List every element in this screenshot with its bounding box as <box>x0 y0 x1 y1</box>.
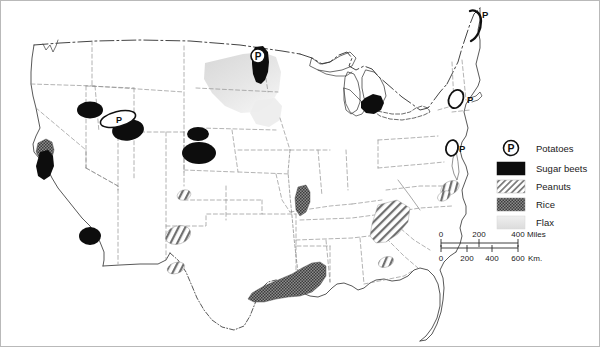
peanuts-georgia-alabama <box>370 200 410 243</box>
scale-bar-kilometers: 0 200 400 600 Km. <box>439 245 542 263</box>
state-line-ar-la <box>296 214 330 246</box>
state-line-mo-il <box>276 174 290 212</box>
state-line-ia-mo <box>238 172 290 174</box>
map-canvas: P P P P P <box>0 0 600 347</box>
scale-tick-km-400: 400 <box>485 254 499 263</box>
peanut-regions <box>163 177 462 276</box>
state-line-id-nv-ut <box>86 86 134 88</box>
legend-item-peanuts[interactable]: Peanuts <box>497 180 571 193</box>
svg-text:P: P <box>467 94 474 105</box>
legend: P Potatoes Sugar beets Peanuts Rice <box>497 141 587 230</box>
legend-swatch-rice-icon <box>497 198 525 211</box>
scale-tick-miles-0: 0 <box>439 230 444 239</box>
scale-tick-miles-400: 400 <box>511 230 525 239</box>
svg-text:P: P <box>116 115 122 125</box>
legend-swatch-peanuts-icon <box>497 180 525 193</box>
state-line-tn-ky-east <box>352 200 382 204</box>
scale-tick-km-0: 0 <box>439 254 444 263</box>
potato-marker-red-river: P <box>251 49 265 63</box>
lake-michigan <box>344 72 360 114</box>
state-line-ok-tx <box>166 214 262 226</box>
rice-gulf-coast <box>248 262 326 302</box>
legend-item-flax[interactable]: Flax <box>497 216 554 229</box>
state-line-in-oh <box>346 150 348 190</box>
scale-tick-km-600: 600 <box>511 254 525 263</box>
legend-item-rice[interactable]: Rice <box>497 198 555 211</box>
scale-bar-miles: 0 200 400 Miles <box>439 230 546 247</box>
state-line-wv-pa <box>378 162 444 168</box>
svg-text:P: P <box>459 143 466 154</box>
scale-unit-kilometers: Km. <box>528 254 542 263</box>
sugar-beets-wyoming-nebraska <box>187 127 209 141</box>
state-line-ma-ct <box>452 110 470 112</box>
state-line-al-ga <box>360 238 364 284</box>
southern-border <box>103 253 170 266</box>
legend-label-potatoes: Potatoes <box>536 143 574 154</box>
state-line-va-md <box>386 186 446 190</box>
peanuts-florida-panhandle <box>377 254 396 269</box>
flax-regions <box>204 52 282 127</box>
state-line-ne-ia <box>232 130 238 172</box>
rice-regions <box>36 139 326 302</box>
maine-border <box>447 8 480 84</box>
legend-item-potatoes[interactable]: P Potatoes <box>504 141 574 156</box>
sugar-beets-yakima <box>77 102 103 119</box>
state-line-nv-az <box>86 168 118 186</box>
florida-peninsula <box>420 252 456 341</box>
state-line-ky-tn <box>300 214 382 220</box>
legend-swatch-sugar-beets-icon <box>497 162 525 175</box>
agriculture-map-figure: P P P P P <box>0 0 600 347</box>
svg-text:P: P <box>255 51 262 62</box>
state-line-ne-ks <box>184 170 236 172</box>
state-line-mn-wi <box>280 118 290 150</box>
legend-label-flax: Flax <box>536 217 554 228</box>
state-line-ca-az <box>86 168 118 190</box>
legend-swatch-flax-icon <box>497 216 525 229</box>
sugar-beets-saginaw <box>361 94 384 114</box>
potato-marker-maine-label: P <box>482 9 489 20</box>
sugar-beets-south-platte <box>182 142 216 164</box>
state-line-pa-ny <box>378 136 438 140</box>
potato-marker-long-island: P <box>446 87 474 110</box>
sugar-beets-imperial <box>79 227 101 245</box>
state-line-or-ca <box>31 84 95 86</box>
scale-bar: 0 200 400 Miles 0 200 400 600 Km. <box>439 230 546 263</box>
legend-label-sugar-beets: Sugar beets <box>536 163 587 174</box>
rice-arkansas-grand-prairie <box>295 185 310 216</box>
legend-item-sugar-beets[interactable]: Sugar beets <box>497 162 587 175</box>
scale-tick-km-200: 200 <box>460 254 474 263</box>
legend-label-rice: Rice <box>536 199 555 210</box>
scale-tick-miles-200: 200 <box>472 230 486 239</box>
potato-marker-eastern-shore: P <box>444 139 466 157</box>
legend-swatch-potatoes-glyph: P <box>507 142 514 154</box>
peanuts-south-texas <box>166 260 187 276</box>
puget-sound <box>43 40 58 52</box>
potato-markers: P P P P P <box>99 9 489 157</box>
state-line-il-in <box>318 150 322 196</box>
scale-unit-miles: Miles <box>527 230 546 239</box>
mississippi-river <box>288 150 298 286</box>
state-line-sd-ne <box>200 128 276 130</box>
legend-label-peanuts: Peanuts <box>536 181 571 192</box>
atlantic-coast <box>456 8 480 252</box>
peanuts-north-texas <box>176 188 192 202</box>
